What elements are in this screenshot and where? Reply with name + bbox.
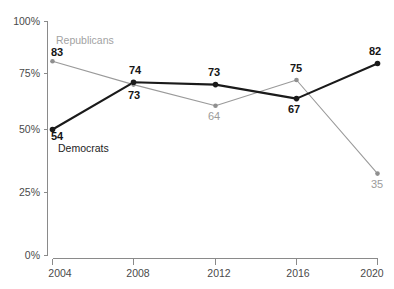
x-axis-label-2016: 2016 [286,267,310,279]
data-label-democrats-2020: 82 [369,45,381,57]
data-label-republicans-2012: 64 [208,110,220,122]
data-label-republicans-2016: 75 [290,62,302,74]
y-axis-label-25: 25% [19,186,40,198]
data-label-republicans-2008: 73 [128,89,140,101]
data-point-democrats-2012 [213,82,219,88]
line-chart-container: 100% 75% 50% 25% 0% 2004 2008 2012 2016 … [0,0,394,289]
data-point-democrats-2016 [294,96,300,102]
data-point-republicans-2020 [375,171,380,176]
x-axis-label-2012: 2012 [207,267,231,279]
x-axis-label-2008: 2008 [126,267,150,279]
data-point-democrats-2008 [131,80,137,86]
x-axis-label-2004: 2004 [48,267,72,279]
series-annotation-republicans: Republicans [56,34,114,46]
x-axis-label-2020: 2020 [360,267,384,279]
data-label-democrats-2008: 74 [129,64,142,76]
y-axis-label-100: 100% [13,15,40,27]
data-label-democrats-2012: 73 [208,66,220,78]
data-point-democrats-2020 [375,61,381,67]
y-axis-label-0: 0% [25,249,40,261]
data-label-republicans-2020: 35 [371,178,383,190]
series-annotation-democrats: Democrats [58,142,109,154]
y-axis-label-50: 50% [19,123,40,135]
data-point-republicans-2004 [50,59,55,64]
data-label-democrats-2016: 67 [288,103,300,115]
data-label-democrats-2004: 54 [51,130,64,142]
data-label-republicans-2004: 83 [51,46,63,58]
data-point-republicans-2012 [213,103,218,108]
line-chart: 100% 75% 50% 25% 0% 2004 2008 2012 2016 … [0,0,394,289]
y-axis-label-75: 75% [19,67,40,79]
data-point-republicans-2016 [294,78,299,83]
